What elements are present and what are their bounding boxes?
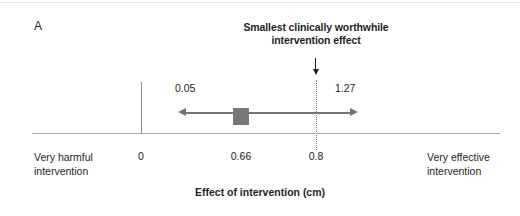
threshold-callout-label: Smallest clinically worthwhile intervent… (196, 21, 436, 47)
tick-label-threshold: 0.8 (301, 150, 331, 163)
threshold-callout-line1: Smallest clinically worthwhile (196, 21, 436, 34)
ci-lower-value: 0.05 (175, 82, 195, 95)
zero-reference-line (141, 82, 142, 134)
ci-right-arrowhead-icon (350, 108, 358, 116)
axis-left-end-line2: intervention (34, 164, 93, 178)
down-arrow-icon (315, 58, 317, 75)
top-divider (0, 2, 520, 3)
tick-label-point-estimate: 0.66 (221, 150, 261, 163)
axis-left-end-line1: Very harmful (34, 150, 93, 164)
panel-letter: A (34, 19, 42, 33)
x-axis-title: Effect of intervention (cm) (110, 186, 410, 199)
ci-shaft (184, 112, 352, 114)
threshold-callout-line2: intervention effect (196, 34, 436, 47)
point-estimate-marker (233, 108, 249, 125)
ci-upper-value: 1.27 (335, 82, 355, 95)
confidence-interval-arrow (178, 107, 358, 120)
axis-right-end-line1: Very effective (427, 150, 490, 164)
axis-left-end-label: Very harmful intervention (34, 150, 93, 178)
axis-baseline (32, 133, 500, 134)
forest-plot-figure: A Smallest clinically worthwhile interve… (0, 0, 520, 216)
axis-right-end-label: Very effective intervention (427, 150, 490, 178)
axis-right-end-line2: intervention (427, 164, 490, 178)
down-arrow-head (313, 69, 319, 75)
tick-label-zero: 0 (131, 150, 151, 163)
